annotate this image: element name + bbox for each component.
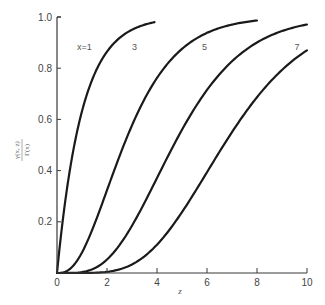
axes-group [57,17,307,273]
x-tick-label: 8 [254,277,260,288]
incomplete-gamma-chart: 0246810 0.20.40.60.81.0 x=1357 z γ(x, z)… [0,0,325,305]
curve-label: 7 [294,42,299,52]
y-tick-label: 0.4 [38,165,52,176]
y-tick-label: 0.6 [38,114,52,125]
curve-label: 5 [202,42,207,52]
x-tick-label: 0 [54,277,60,288]
y-tick-label: 1.0 [38,12,52,23]
curve-label: x=1 [77,42,92,52]
curve-x-5 [57,24,307,273]
y-axis-label-numerator: γ(x, z) [13,140,21,160]
curve-label: 3 [132,42,137,52]
y-tick-label: 0.2 [38,216,52,227]
x-axis-label: z [177,286,182,296]
curve-x-7 [57,50,307,273]
x-ticks: 0246810 [54,268,313,288]
x-tick-label: 2 [104,277,110,288]
y-tick-label: 0.8 [38,63,52,74]
y-axis-label: γ(x, z) Γ(x) [13,139,31,161]
x-tick-label: 6 [204,277,210,288]
x-tick-label: 10 [301,277,313,288]
curves-group [57,21,307,273]
y-axis-label-denominator: Γ(x) [23,143,31,156]
curve-x-1 [57,22,155,273]
curve-x-3 [57,21,257,273]
x-tick-label: 4 [154,277,160,288]
